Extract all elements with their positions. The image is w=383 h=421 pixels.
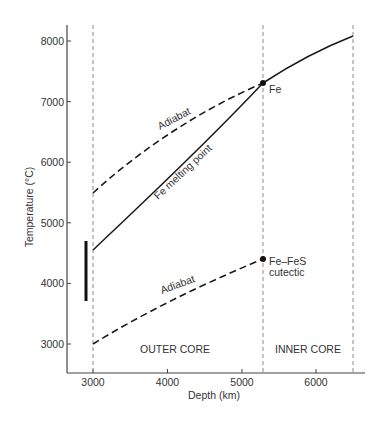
melting-curve-label: Fe melting point xyxy=(151,142,214,202)
y-tick-label: 7000 xyxy=(41,96,65,108)
chart: 8000 7000 6000 5000 4000 3000 3000 4000 … xyxy=(0,0,383,421)
y-tick-label: 6000 xyxy=(41,156,65,168)
y-tick-label: 4000 xyxy=(41,277,65,289)
x-tick-labels: 3000 4000 5000 6000 xyxy=(81,376,328,388)
lower-adiabat-label: Adiabat xyxy=(159,272,197,295)
y-tick-labels: 8000 7000 6000 5000 4000 3000 xyxy=(41,35,65,350)
fe-fes-eutectic-point xyxy=(260,256,266,262)
upper-adiabat-label: Adiabat xyxy=(155,104,192,131)
fe-label: Fe xyxy=(269,83,281,95)
outer-core-label: OUTER CORE xyxy=(140,343,210,355)
y-tick-label: 8000 xyxy=(41,35,65,47)
fe-melting-curve xyxy=(93,36,353,250)
lower-adiabat-curve xyxy=(93,259,263,344)
y-axis-title: Temperature (°C) xyxy=(23,167,35,248)
fe-point xyxy=(260,80,266,86)
x-tick-label: 3000 xyxy=(81,376,105,388)
eutectic-label: cutectic xyxy=(269,266,305,278)
x-tick-label: 4000 xyxy=(156,376,180,388)
inner-core-label: INNER CORE xyxy=(275,343,341,355)
y-tick-label: 5000 xyxy=(41,217,65,229)
x-tick-label: 6000 xyxy=(304,376,328,388)
x-tick-label: 5000 xyxy=(230,376,254,388)
x-axis-title: Depth (km) xyxy=(188,389,240,401)
y-tick-label: 3000 xyxy=(41,338,65,350)
axes xyxy=(67,25,365,373)
